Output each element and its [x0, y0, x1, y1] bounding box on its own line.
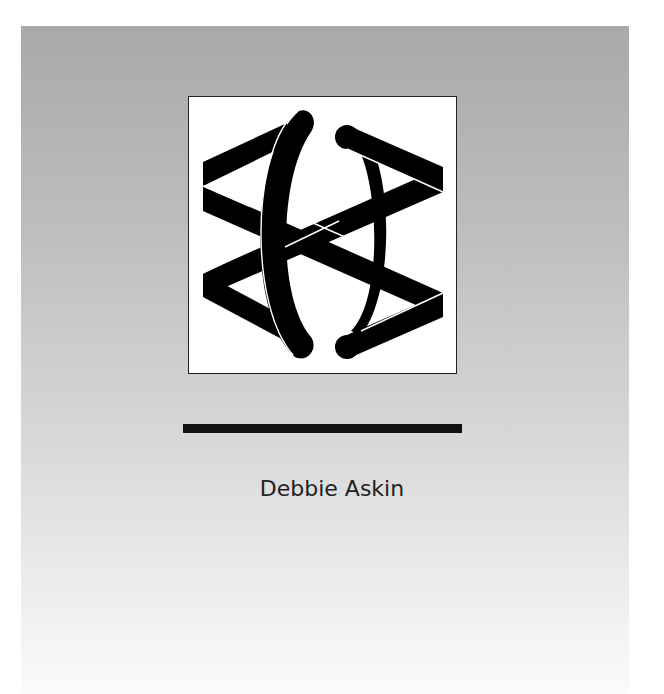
- logo-frame: [188, 96, 457, 374]
- divider-rule: [183, 424, 462, 433]
- author-name: Debbie Askin: [0, 476, 664, 501]
- interlaced-ribbon-logo-icon: [189, 97, 456, 373]
